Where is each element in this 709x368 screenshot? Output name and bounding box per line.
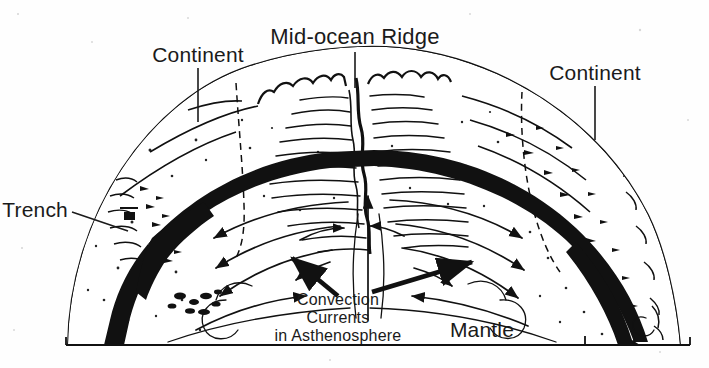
label-mid-ocean-ridge: Mid-ocean Ridge bbox=[270, 24, 439, 49]
label-trench: Trench bbox=[2, 198, 68, 221]
label-continent-right: Continent bbox=[549, 61, 641, 84]
label-continent-left: Continent bbox=[152, 43, 244, 66]
plate-tectonics-figure: Mid-ocean Ridge Continent Continent Tren… bbox=[0, 0, 709, 368]
label-mantle: Mantle bbox=[450, 318, 514, 341]
label-convection-line3: in Asthenosphere bbox=[275, 327, 402, 344]
label-convection-line2: Currents bbox=[307, 309, 370, 326]
diagram-root: Mid-ocean Ridge Continent Continent Tren… bbox=[0, 0, 709, 368]
label-convection-line1: Convection bbox=[297, 291, 379, 308]
